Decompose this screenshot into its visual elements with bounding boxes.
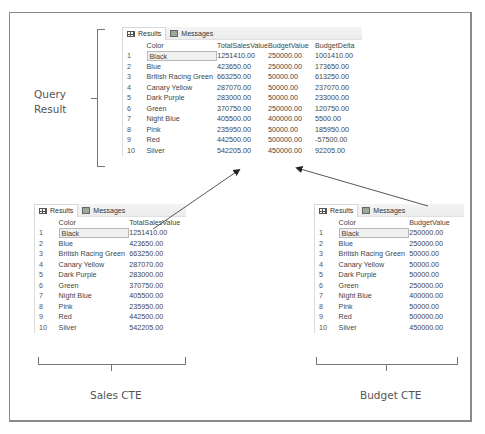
sales-to-result-arrow [153, 170, 239, 229]
arrows [0, 0, 485, 434]
budget-to-result-arrow [297, 168, 428, 206]
